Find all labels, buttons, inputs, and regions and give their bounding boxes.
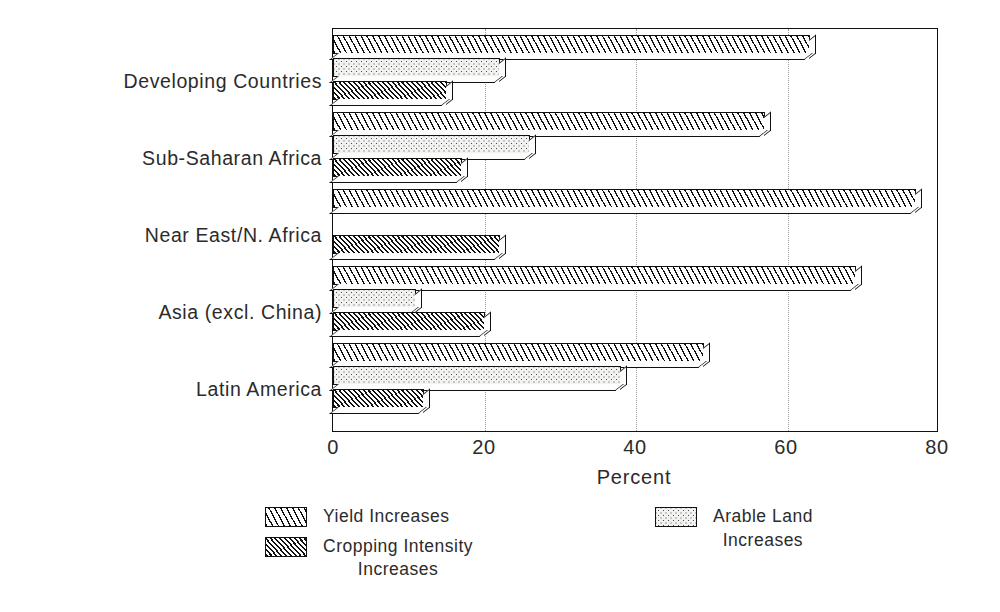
- bar-3d-side-face: [764, 112, 771, 136]
- bar-near-east-n-africa-cropping: [333, 235, 500, 254]
- chart-legend: Yield Increases Cropping Intensity Incre…: [0, 505, 1000, 605]
- x-tick-20: 20: [472, 436, 495, 459]
- bar-3d-side-face: [703, 343, 710, 367]
- legend-swatch-cropping-icon: [265, 537, 307, 557]
- bar-3d-side-face: [915, 189, 922, 213]
- legend-label-cropping-line2: Increases: [323, 558, 473, 582]
- bar-3d-bottom-face: [329, 99, 450, 106]
- bar-group-near-east-n-africa: [333, 189, 937, 265]
- category-label-sub-saharan-africa: Sub-Saharan Africa: [30, 147, 322, 170]
- category-label-developing-countries: Developing Countries: [30, 70, 322, 93]
- bar-3d-bottom-face: [329, 176, 465, 183]
- bar-sub-saharan-africa-yield: [333, 112, 765, 131]
- bar-latin-america-cropping: [333, 389, 424, 408]
- bar-3d-side-face: [529, 135, 536, 159]
- legend-swatch-yield-icon: [265, 507, 307, 527]
- bar-3d-side-face: [415, 289, 422, 313]
- legend-label-yield-increases-wrap: Yield Increases: [323, 505, 450, 529]
- bar-developing-countries-yield: [333, 35, 810, 54]
- x-axis-title: Percent: [329, 466, 672, 488]
- bar-group-sub-saharan-africa: [333, 112, 937, 188]
- bar-3d-side-face: [461, 158, 468, 182]
- category-label-near-east-n-africa: Near East/N. Africa: [30, 224, 322, 247]
- legend-label-yield-increases: Yield Increases: [323, 506, 450, 526]
- x-tick-60: 60: [774, 436, 797, 459]
- legend-label-cropping-wrap: Cropping Intensity Increases: [323, 535, 473, 582]
- legend-label-arable-line1: Arable Land: [713, 506, 813, 526]
- bar-3d-side-face: [499, 58, 506, 82]
- category-axis-labels: Developing Countries Sub-Saharan Africa …: [30, 30, 322, 430]
- bar-asia-excl-china-arable: [333, 289, 416, 308]
- legend-swatch-arable-icon: [655, 507, 697, 527]
- bar-3d-bottom-face: [329, 330, 487, 337]
- x-tick-0: 0: [327, 436, 339, 459]
- x-axis-tick-labels: 0 20 40 60 80: [0, 436, 1000, 462]
- legend-label-cropping-line1: Cropping Intensity: [323, 536, 473, 556]
- bar-sub-saharan-africa-cropping: [333, 158, 462, 177]
- bar-developing-countries-arable: [333, 58, 500, 77]
- bar-asia-excl-china-cropping: [333, 312, 485, 331]
- bar-latin-america-yield: [333, 343, 704, 362]
- bar-group-asia-excl-china: [333, 266, 937, 342]
- bar-3d-side-face: [499, 235, 506, 259]
- legend-item-arable-land-increases[interactable]: Arable Land Increases: [655, 505, 955, 552]
- bar-group-developing-countries: [333, 35, 937, 111]
- bar-3d-bottom-face: [329, 207, 919, 214]
- bar-chart: Developing Countries Sub-Saharan Africa …: [0, 0, 1000, 612]
- category-label-latin-america: Latin America: [30, 378, 322, 401]
- bar-latin-america-arable: [333, 366, 621, 385]
- legend-label-arable-line2: Increases: [713, 529, 813, 553]
- bar-3d-side-face: [446, 81, 453, 105]
- legend-item-yield-increases[interactable]: Yield Increases: [265, 505, 595, 529]
- bar-developing-countries-cropping: [333, 81, 447, 100]
- bar-group-latin-america: [333, 343, 937, 419]
- x-tick-80: 80: [925, 436, 948, 459]
- legend-column-left: Yield Increases Cropping Intensity Incre…: [265, 505, 595, 588]
- bar-3d-side-face: [620, 366, 627, 390]
- plot-area: [332, 28, 938, 432]
- bar-near-east-n-africa-yield: [333, 189, 916, 208]
- bar-3d-side-face: [484, 312, 491, 336]
- bar-3d-side-face: [855, 266, 862, 290]
- x-tick-40: 40: [623, 436, 646, 459]
- bar-3d-side-face: [423, 389, 430, 413]
- x-axis-title-wrap: Percent: [0, 466, 1000, 489]
- legend-label-arable-wrap: Arable Land Increases: [713, 505, 813, 552]
- legend-item-cropping-intensity-increases[interactable]: Cropping Intensity Increases: [265, 535, 595, 582]
- legend-column-right: Arable Land Increases: [655, 505, 955, 558]
- bar-sub-saharan-africa-arable: [333, 135, 530, 154]
- bar-3d-bottom-face: [329, 253, 503, 260]
- bar-3d-side-face: [809, 35, 816, 59]
- bar-asia-excl-china-yield: [333, 266, 856, 285]
- bar-3d-bottom-face: [329, 407, 427, 414]
- category-label-asia-excl-china: Asia (excl. China): [30, 301, 322, 324]
